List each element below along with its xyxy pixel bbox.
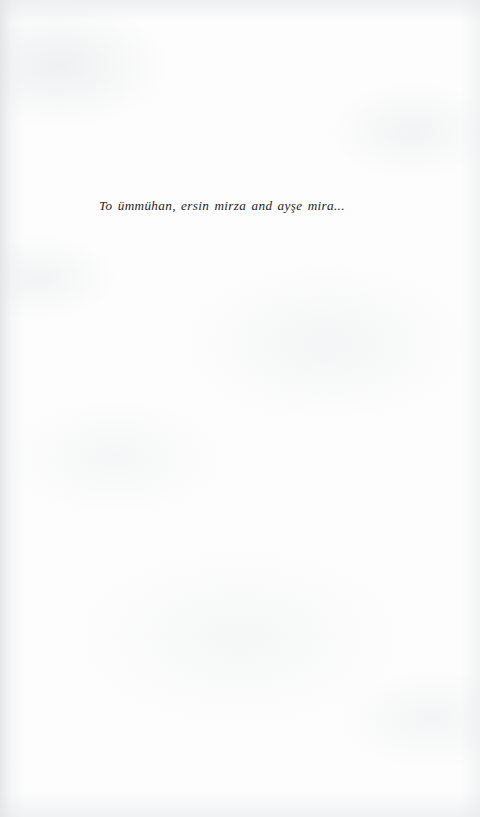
dedication-text: To ümmühan, ersin mirza and ayşe mira... (99, 197, 345, 215)
paper-texture (0, 0, 480, 817)
dedication-block: To ümmühan, ersin mirza and ayşe mira... (0, 196, 480, 215)
gutter-shadow (0, 0, 26, 817)
dedication-page: To ümmühan, ersin mirza and ayşe mira... (0, 0, 480, 817)
page-edge-vignette (0, 0, 480, 817)
